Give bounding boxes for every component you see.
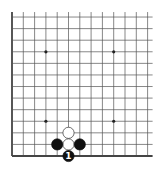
star-point: [112, 120, 115, 123]
white-stone[interactable]: [63, 139, 74, 150]
board-grid: [12, 12, 153, 156]
black-stone[interactable]: [52, 139, 63, 150]
stone-disc: [63, 139, 74, 150]
star-point: [44, 50, 47, 53]
move-number-label: 1: [65, 151, 71, 161]
star-point: [44, 120, 47, 123]
stone-disc: [52, 139, 63, 150]
black-stone[interactable]: [74, 139, 85, 150]
white-stone[interactable]: [63, 127, 74, 138]
stone-disc: [74, 139, 85, 150]
black-stone-move-1[interactable]: 1: [63, 150, 74, 161]
star-point: [112, 50, 115, 53]
stone-disc: [63, 127, 74, 138]
go-board: 1: [0, 0, 161, 170]
